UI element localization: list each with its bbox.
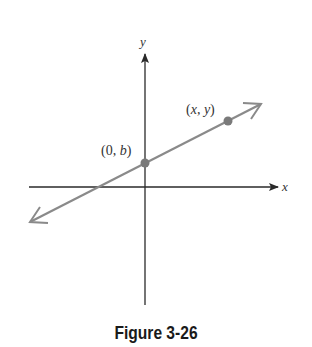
point-general — [224, 117, 233, 126]
line-graph-figure: x y (0, b) (x, y) — [0, 0, 312, 347]
label-general-point: (x, y) — [186, 102, 215, 118]
figure-caption: Figure 3-26 — [28, 322, 284, 344]
point-y-intercept — [141, 159, 150, 168]
label-y-intercept: (0, b) — [101, 143, 132, 159]
x-axis-label: x — [281, 179, 288, 194]
y-axis-label: y — [138, 34, 146, 49]
